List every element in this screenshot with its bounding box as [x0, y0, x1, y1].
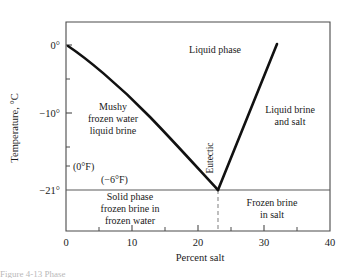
region-label-frozen-brine-salt-line1: Frozen brine — [247, 197, 298, 208]
eutectic-label: Eutectic — [205, 142, 215, 173]
region-label-solid-phase-line3: frozen water — [105, 215, 156, 226]
x-tick-label-20: 20 — [193, 237, 204, 248]
phase-diagram-figure: 0° −10° −21° (0°F) (−6°F) 0 10 20 30 40 … — [0, 0, 356, 278]
region-label-mushy-line3: liquid brine — [90, 125, 137, 136]
region-label-mushy-line2: frozen water — [88, 113, 139, 124]
x-tick-label-0: 0 — [63, 237, 68, 248]
region-label-liquid-brine-line1: Liquid brine — [265, 104, 315, 115]
region-label-solid-phase-line2: frozen brine in — [101, 203, 160, 214]
region-label-frozen-brine-salt-line2: in salt — [260, 209, 284, 220]
y-tick-label-0: 0° — [51, 40, 60, 51]
y-tick-label-minus10: −10° — [39, 108, 60, 119]
x-tick-label-10: 10 — [127, 237, 138, 248]
y-tick-label-minus21: −21° — [39, 185, 60, 196]
x-axis-title: Percent salt — [176, 252, 225, 263]
region-label-solid-phase-line1: Solid phase — [107, 191, 154, 202]
region-label-liquid-phase: Liquid phase — [189, 44, 241, 55]
salt-water-phase-diagram: 0° −10° −21° (0°F) (−6°F) 0 10 20 30 40 … — [0, 0, 356, 278]
x-tick-label-40: 40 — [325, 237, 336, 248]
region-label-mushy-line1: Mushy — [99, 101, 127, 112]
y-axis-title: Temperature, °C — [9, 93, 20, 162]
annotation-minus6-fahrenheit: (−6°F) — [101, 174, 128, 186]
x-tick-label-30: 30 — [259, 237, 270, 248]
region-label-liquid-brine-line2: and salt — [275, 116, 306, 127]
annotation-0-fahrenheit: (0°F) — [73, 161, 94, 173]
figure-caption-fragment: Figure 4-13 Phase — [0, 270, 356, 278]
